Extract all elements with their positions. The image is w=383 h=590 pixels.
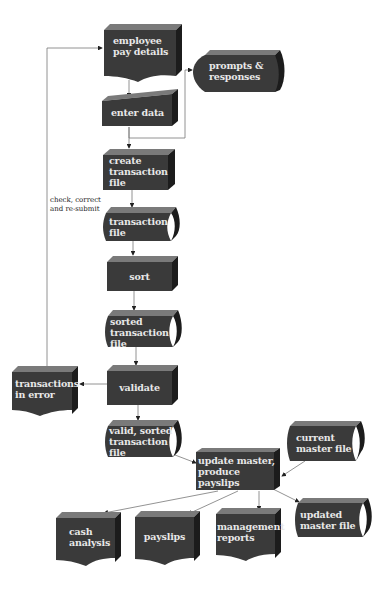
label-updated-master-file: updated master file — [300, 509, 355, 531]
label-line: master file — [300, 520, 355, 531]
label-prompts-responses: prompts & responses — [209, 60, 264, 82]
flowchart-canvas — [0, 0, 383, 590]
label-line: transaction — [109, 216, 168, 227]
label-line: current — [296, 432, 351, 443]
label-line: cash — [69, 526, 110, 537]
label-line: in error — [15, 389, 79, 400]
label-current-master-file: current master file — [296, 432, 351, 454]
label-cash-analysis: cash analysis — [69, 526, 110, 548]
label-line: analysis — [69, 537, 110, 548]
label-line: pay details — [113, 46, 168, 57]
label-line: valid, sorted — [109, 425, 172, 436]
label-transaction-file: transaction file — [109, 216, 168, 238]
label-line: sorted — [110, 316, 169, 327]
label-line: file — [109, 447, 172, 458]
label-line: prompts & — [209, 60, 264, 71]
label-line: master file — [296, 443, 351, 454]
label-line: management — [217, 521, 284, 532]
label-line: reports — [217, 532, 284, 543]
label-line: transaction — [109, 166, 168, 177]
label-payslips: payslips — [135, 531, 194, 542]
label-update-master: update master, produce payslips — [198, 455, 275, 488]
label-enter-data: enter data — [111, 107, 164, 118]
label-valid-sorted-transaction-file: valid, sorted transaction file — [109, 425, 172, 458]
label-line: responses — [209, 71, 264, 82]
label-sorted-transaction-file: sorted transaction file — [110, 316, 169, 349]
label-line: payslips — [198, 477, 275, 488]
label-management-reports: management reports — [217, 521, 284, 543]
label-line: file — [109, 227, 168, 238]
note-line: check, correct — [50, 196, 101, 205]
label-line: transactions — [15, 378, 79, 389]
label-line: enter data — [111, 107, 164, 118]
label-validate: validate — [107, 382, 172, 393]
label-create-transaction-file: create transaction file — [109, 155, 168, 188]
label-line: transaction — [110, 327, 169, 338]
label-line: transaction — [109, 436, 172, 447]
label-line: validate — [107, 382, 172, 393]
label-employee-pay-details: employee pay details — [113, 35, 168, 57]
label-sort: sort — [107, 271, 172, 282]
label-line: updated — [300, 509, 355, 520]
note-line: and re-submit — [50, 205, 101, 214]
label-line: create — [109, 155, 168, 166]
label-line: file — [109, 177, 168, 188]
label-line: produce — [198, 466, 275, 477]
label-line: update master, — [198, 455, 275, 466]
label-line: employee — [113, 35, 168, 46]
label-line: file — [110, 338, 169, 349]
label-line: sort — [107, 271, 172, 282]
note-check-correct-resubmit: check, correct and re-submit — [50, 196, 101, 214]
label-line: payslips — [135, 531, 194, 542]
label-transactions-in-error: transactions in error — [15, 378, 79, 400]
